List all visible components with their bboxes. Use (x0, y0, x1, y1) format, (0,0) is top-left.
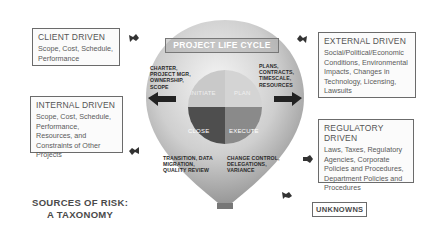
unknowns-box: UNKNOWNS (312, 202, 367, 217)
regulatory-driven-box: REGULATORY DRIVEN Laws, Taxes, Regulator… (318, 119, 414, 183)
initiate-notes: CHARTER, PROJECT MGR, OWNERSHIP, SCOPE (150, 65, 198, 90)
pushpin-icon (128, 146, 140, 156)
quadrant-initiate-label: INITIATE (190, 90, 216, 96)
external-driven-box: EXTERNAL DRIVEN Social/Political/Economi… (318, 32, 416, 98)
caption-line-2: A TAXONOMY (32, 209, 128, 221)
client-driven-body: Scope, Cost, Schedule, Performance (38, 44, 114, 63)
close-notes: TRANSITION, DATA MIGRATION, QUALITY REVI… (163, 155, 219, 174)
external-driven-body: Social/Political/Economic Conditions, En… (324, 48, 410, 96)
quadrant-close-label: CLOSE (188, 128, 209, 134)
plan-notes: PLANS, CONTRACTS, TIMESCALE, RESOURCES (259, 63, 301, 88)
client-driven-title: CLIENT DRIVEN (38, 32, 114, 42)
internal-driven-box: INTERNAL DRIVEN Scope, Cost, Schedule, P… (30, 96, 123, 153)
diagram-caption: SOURCES OF RISK: A TAXONOMY (32, 197, 128, 221)
internal-driven-title: INTERNAL DRIVEN (36, 100, 117, 110)
regulatory-driven-body: Laws, Taxes, Regulatory Agencies, Corpor… (324, 145, 408, 193)
internal-driven-body: Scope, Cost, Schedule, Performance, Reso… (36, 112, 117, 160)
quadrant-plan-label: PLAN (234, 90, 250, 96)
quadrant-execute-label: EXECUTE (229, 128, 259, 134)
client-driven-box: CLIENT DRIVEN Scope, Cost, Schedule, Per… (32, 28, 120, 66)
execute-notes: CHANGE CONTROL, DELEGATIONS, VARIANCE (227, 155, 291, 174)
project-life-cycle-title: PROJECT LIFE CYCLE (165, 38, 279, 53)
pushpin-icon (128, 33, 140, 43)
caption-line-1: SOURCES OF RISK: (32, 197, 128, 209)
regulatory-driven-title: REGULATORY DRIVEN (324, 123, 408, 143)
external-driven-title: EXTERNAL DRIVEN (324, 36, 410, 46)
